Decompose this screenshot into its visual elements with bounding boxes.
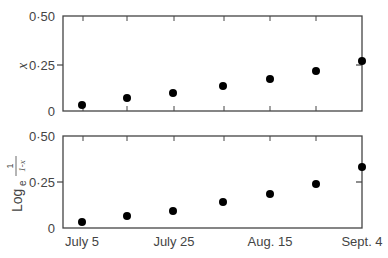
bottom-series-markers bbox=[78, 163, 366, 226]
bottom-ytick-0: 0 bbox=[48, 221, 55, 236]
bottom-ylabel-log: Log bbox=[9, 189, 25, 212]
top-ylabel: x bbox=[15, 62, 30, 70]
bottom-ylabel: Log e 1 1-x bbox=[5, 156, 28, 212]
xtick-sept-4: Sept. 4 bbox=[341, 234, 382, 249]
chart-figure: 0·50 0·25 0 x 0·50 0·25 0 Log e 1 bbox=[0, 0, 388, 258]
bottom-panel: 0·50 0·25 0 Log e 1 1-x July 5 July 25 A… bbox=[5, 129, 383, 249]
top-ytick-0: 0 bbox=[48, 104, 55, 119]
bottom-ylabel-sub: e bbox=[17, 180, 28, 186]
top-panel: 0·50 0·25 0 x bbox=[15, 9, 366, 119]
bottom-ytick-050: 0·50 bbox=[29, 129, 55, 144]
bottom-ylabel-num: 1 bbox=[5, 163, 15, 168]
bottom-ytick-025: 0·25 bbox=[29, 175, 55, 190]
bottom-ylabel-den: 1-x bbox=[17, 160, 27, 172]
xtick-aug-15: Aug. 15 bbox=[248, 234, 293, 249]
xtick-july-25: July 25 bbox=[153, 234, 194, 249]
top-ytick-025: 0·25 bbox=[29, 58, 55, 73]
top-ytick-050: 0·50 bbox=[29, 9, 55, 24]
top-plot-frame bbox=[63, 16, 362, 111]
top-series-markers bbox=[78, 57, 366, 109]
xtick-july-5: July 5 bbox=[65, 234, 99, 249]
